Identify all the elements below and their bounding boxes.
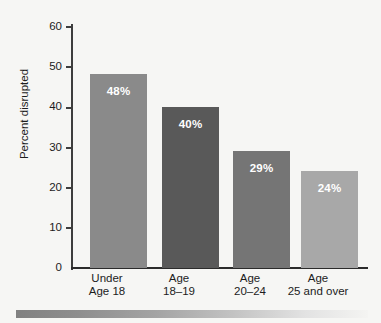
bar-under-age-18: 48% bbox=[90, 74, 147, 268]
x-category-line-1: Age bbox=[273, 272, 363, 285]
bar-value-label-age-20-24: 29% bbox=[233, 162, 290, 174]
bar-group-age-18-19: 40% bbox=[162, 26, 219, 268]
bar-group-age-20-24: 29% bbox=[233, 26, 290, 268]
x-category-line-2: 25 and over bbox=[273, 285, 363, 298]
bar-age-18-19: 40% bbox=[162, 107, 219, 268]
bar-value-label-under-age-18: 48% bbox=[90, 85, 147, 97]
y-tick-label-50: 50 bbox=[22, 61, 62, 73]
y-tick-label-60: 60 bbox=[22, 21, 62, 33]
bar-value-label-age-25-and-over: 24% bbox=[301, 182, 358, 194]
bar-chart-figure: Percent disrupted 60 50 40 30 20 10 0 48… bbox=[0, 0, 381, 323]
bar-group-under-age-18: 48% bbox=[90, 26, 147, 268]
x-category-label-age-25-and-over: Age 25 and over bbox=[273, 272, 363, 298]
y-tick-label-0: 0 bbox=[22, 262, 62, 274]
y-tick-label-10: 10 bbox=[22, 222, 62, 234]
y-tick-label-40: 40 bbox=[22, 101, 62, 113]
bar-value-label-age-18-19: 40% bbox=[162, 118, 219, 130]
decorative-gradient-rule bbox=[16, 310, 368, 318]
bar-group-age-25-and-over: 24% bbox=[301, 26, 358, 268]
plot-area: 48% 40% 29% 24% bbox=[72, 26, 368, 268]
y-tick-label-30: 30 bbox=[22, 142, 62, 154]
y-tick-label-20: 20 bbox=[22, 182, 62, 194]
bar-age-20-24: 29% bbox=[233, 151, 290, 268]
bar-age-25-and-over: 24% bbox=[301, 171, 358, 268]
